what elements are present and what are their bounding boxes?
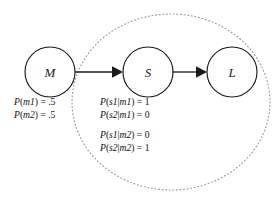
conditional-group-one-line-1: P(s1|m1) = 1	[99, 96, 150, 108]
node-m[interactable]: M	[25, 47, 75, 97]
prior-probability-block: P(m1) = .5 P(m2) = .5	[13, 96, 56, 121]
conditional-probability-block-two: P(s1|m2) = 0 P(s2|m2) = 1	[99, 129, 150, 154]
node-s-label: S	[145, 65, 152, 80]
conditional-group-one-line-2: P(s2|m1) = 0	[99, 109, 150, 121]
prior-line-1: P(m1) = .5	[13, 96, 56, 108]
node-s[interactable]: S	[123, 47, 173, 97]
edge-s-to-l	[173, 66, 207, 78]
node-m-label: M	[44, 65, 57, 80]
conditional-group-two-line-1: P(s1|m2) = 0	[99, 129, 150, 141]
conditional-probability-block-one: P(s1|m1) = 1 P(s2|m1) = 0	[99, 96, 150, 121]
conditional-group-two-line-2: P(s2|m2) = 1	[99, 142, 150, 154]
prior-line-2: P(m2) = .5	[13, 109, 56, 121]
node-l-label: L	[227, 65, 235, 80]
causal-network-graphic: M S L P(m1) = .5 P(m2) = .5 P(s1|m1) = 1…	[0, 0, 279, 200]
node-l[interactable]: L	[207, 47, 257, 97]
edge-m-to-s	[75, 66, 123, 78]
edge-s-to-l-arrowhead	[196, 66, 207, 78]
diagram-canvas: M S L P(m1) = .5 P(m2) = .5 P(s1|m1) = 1…	[0, 0, 279, 200]
edge-m-to-s-arrowhead	[112, 66, 123, 78]
